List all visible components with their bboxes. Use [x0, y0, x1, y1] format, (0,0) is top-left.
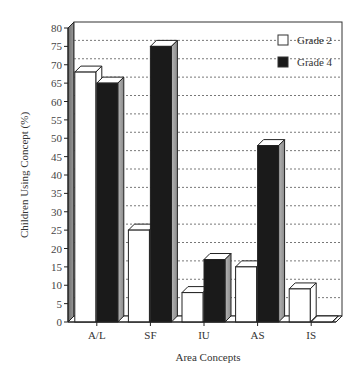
x-tick-label: IS	[306, 329, 316, 341]
y-tick-label: 30	[51, 206, 63, 218]
y-tick-label: 10	[51, 279, 63, 291]
y-tick-label: 5	[57, 298, 63, 310]
y-tick-label: 80	[51, 22, 63, 34]
y-tick-label: 40	[51, 169, 63, 181]
y-tick-label: 55	[51, 114, 63, 126]
x-tick-label: IU	[198, 329, 210, 341]
x-tick-label: AS	[251, 329, 265, 341]
y-tick-label: 50	[51, 132, 63, 144]
bar-chart: 05101520253035404550556065707580 A/LSFIU…	[0, 0, 360, 384]
y-tick-label: 15	[51, 261, 63, 273]
y-tick-label: 45	[51, 151, 63, 163]
y-tick-label: 75	[51, 40, 63, 52]
bar	[258, 140, 285, 322]
x-axis-title: Area Concepts	[175, 351, 240, 363]
y-tick-label: 25	[51, 224, 63, 236]
legend-swatch	[278, 35, 288, 45]
y-tick-label: 65	[51, 77, 63, 89]
y-tick-label: 60	[51, 96, 63, 108]
x-tick-label: A/L	[88, 329, 106, 341]
x-axis: A/LSFIUASIS	[68, 322, 336, 341]
y-tick-label: 70	[51, 59, 63, 71]
bar	[204, 254, 231, 322]
legend-label: Grade 2	[297, 34, 332, 46]
y-tick-label: 0	[57, 316, 63, 328]
category-group	[75, 66, 124, 322]
y-axis: 05101520253035404550556065707580	[51, 22, 68, 328]
legend-item: Grade 4	[278, 56, 333, 68]
y-axis-title: Children Using Concept (%)	[18, 112, 31, 239]
legend-item: Grade 2	[278, 34, 332, 46]
bar	[97, 77, 124, 322]
y-tick-label: 20	[51, 243, 63, 255]
legend-swatch	[278, 57, 288, 67]
y-tick-label: 35	[51, 187, 63, 199]
legend-label: Grade 4	[297, 56, 333, 68]
bar	[289, 283, 316, 322]
bar	[150, 40, 177, 322]
x-tick-label: SF	[144, 329, 156, 341]
